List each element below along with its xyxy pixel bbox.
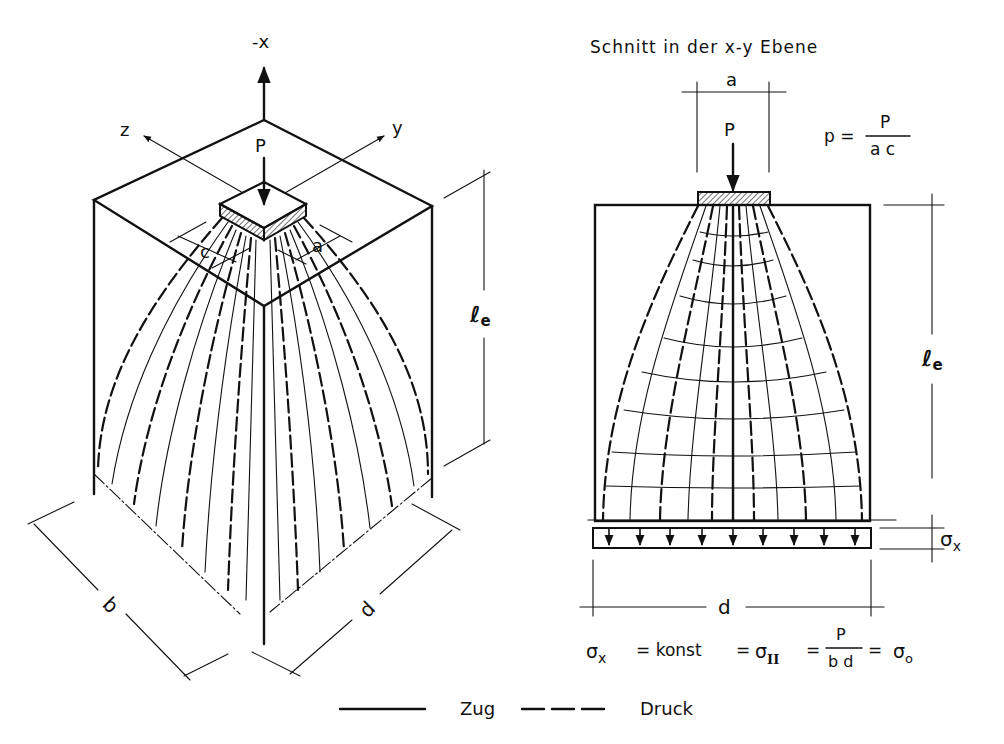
dim-label-sigma-x: σx	[940, 527, 961, 554]
svg-text:σx: σx	[586, 640, 606, 666]
dim-label-le-iso: ℓe	[469, 302, 491, 330]
dim-d-section: d	[580, 560, 884, 619]
legend: Zug Druck	[340, 698, 694, 719]
dim-label-a-iso: a	[312, 235, 323, 256]
stress-block	[588, 520, 896, 548]
y-axis-label: y	[392, 117, 403, 138]
dim-label-d-iso: d	[354, 596, 380, 622]
dim-label-le-section: ℓe	[921, 346, 943, 374]
legend-label-zug: Zug	[460, 698, 495, 719]
stress-formula: σx = konst = σII = P b d = σo	[586, 625, 913, 671]
coordinate-axes: -x z y	[120, 31, 403, 205]
trajectories-right-face	[270, 218, 428, 600]
dim-label-a-section: a	[726, 69, 737, 90]
load-label-section: P	[724, 119, 735, 140]
legend-label-druck: Druck	[640, 698, 694, 719]
z-axis-label: z	[120, 119, 129, 140]
svg-text:=: =	[806, 640, 820, 660]
section-load-plate	[698, 192, 770, 205]
pressure-formula-den: a c	[870, 139, 895, 159]
section-trajectories	[603, 205, 862, 520]
dim-label-b: b	[98, 592, 124, 618]
neg-x-axis-label: -x	[252, 31, 269, 52]
svg-text:P: P	[836, 625, 846, 644]
section-title: Schnitt in der x-y Ebene	[590, 37, 818, 57]
svg-text:σII: σII	[755, 640, 779, 667]
dim-label-d-section: d	[718, 595, 731, 619]
dim-le-section: ℓe σx	[880, 194, 961, 562]
trajectories-left-face	[98, 218, 256, 600]
svg-text:b d: b d	[828, 652, 853, 671]
dim-le-iso: ℓe	[444, 170, 491, 466]
load-label-iso: P	[255, 135, 266, 156]
dim-label-c: c	[200, 241, 210, 262]
pressure-formula-lhs: p =	[824, 126, 854, 146]
svg-text:=: =	[736, 640, 750, 660]
svg-text:σo: σo	[893, 640, 913, 666]
stress-trajectory-figure: -x z y P c	[0, 0, 1004, 744]
stress-formula-konst: = konst	[636, 640, 702, 660]
svg-text:=: =	[868, 640, 882, 660]
pressure-formula-num: P	[880, 112, 890, 132]
dim-b-d-iso: b d	[28, 502, 460, 680]
